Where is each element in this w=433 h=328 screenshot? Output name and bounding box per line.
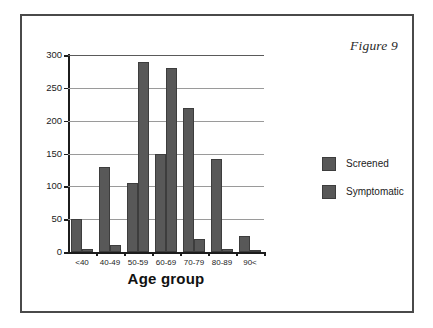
legend-swatch-screened <box>322 157 336 171</box>
legend-label-screened: Screened <box>346 159 389 169</box>
x-axis-tick <box>124 252 126 256</box>
y-axis-tick-label: 250 <box>46 83 62 93</box>
y-axis-tick-label: 100 <box>46 182 62 192</box>
bar-symptomatic-3 <box>166 68 177 252</box>
x-axis-category-label: 70-79 <box>184 259 204 267</box>
x-axis-tick <box>208 252 210 256</box>
x-axis-category-label: 40-49 <box>100 259 120 267</box>
bar-symptomatic-6 <box>250 250 261 252</box>
bar-symptomatic-0 <box>82 249 93 252</box>
chart-legend: Screened Symptomatic <box>322 150 404 206</box>
y-axis-tick-label: 300 <box>46 50 62 60</box>
y-axis-tick-label: 200 <box>46 116 62 126</box>
legend-item-screened[interactable]: Screened <box>322 150 404 178</box>
y-axis-tick-label: 0 <box>57 247 62 257</box>
x-axis-tick <box>96 252 98 256</box>
x-axis-tick <box>180 252 182 256</box>
bar-screened-6 <box>239 236 250 252</box>
x-axis-category-label: 60-69 <box>156 259 176 267</box>
figure-frame: Figure 9 050100150200250300<4040-4950-59… <box>20 14 414 313</box>
y-axis-tick <box>64 219 68 221</box>
bar-symptomatic-1 <box>110 245 121 252</box>
legend-swatch-symptomatic <box>322 185 336 199</box>
x-axis-tick <box>264 252 266 256</box>
bar-screened-3 <box>155 154 166 253</box>
legend-item-symptomatic[interactable]: Symptomatic <box>322 178 404 206</box>
bar-symptomatic-4 <box>194 239 205 252</box>
bar-symptomatic-2 <box>138 62 149 252</box>
y-axis-tick <box>64 252 68 254</box>
x-axis-tick <box>152 252 154 256</box>
y-axis-tick <box>64 154 68 156</box>
y-axis-tick <box>64 121 68 123</box>
y-axis-tick-label: 150 <box>46 149 62 159</box>
bar-screened-4 <box>183 108 194 252</box>
bar-screened-2 <box>127 183 138 252</box>
x-axis-category-label: 90< <box>243 259 257 267</box>
gridline <box>68 55 264 56</box>
bar-screened-5 <box>211 159 222 252</box>
y-axis-tick-label: 50 <box>51 214 62 224</box>
legend-label-symptomatic: Symptomatic <box>346 187 404 197</box>
x-axis-category-label: <40 <box>75 259 89 267</box>
x-axis-tick <box>236 252 238 256</box>
x-axis-title: Age group <box>68 270 264 287</box>
y-axis-tick <box>64 88 68 90</box>
figure-caption: Figure 9 <box>350 38 398 54</box>
y-axis-tick <box>64 55 68 57</box>
bar-symptomatic-5 <box>222 249 233 252</box>
bar-screened-0 <box>71 219 82 252</box>
y-axis-tick <box>64 186 68 188</box>
bar-screened-1 <box>99 167 110 252</box>
chart-plot-area: 050100150200250300<4040-4950-5960-6970-7… <box>68 55 264 252</box>
x-axis-category-label: 50-59 <box>128 259 148 267</box>
chart-plot-inner: 050100150200250300<4040-4950-5960-6970-7… <box>68 55 264 252</box>
x-axis-category-label: 80-89 <box>212 259 232 267</box>
